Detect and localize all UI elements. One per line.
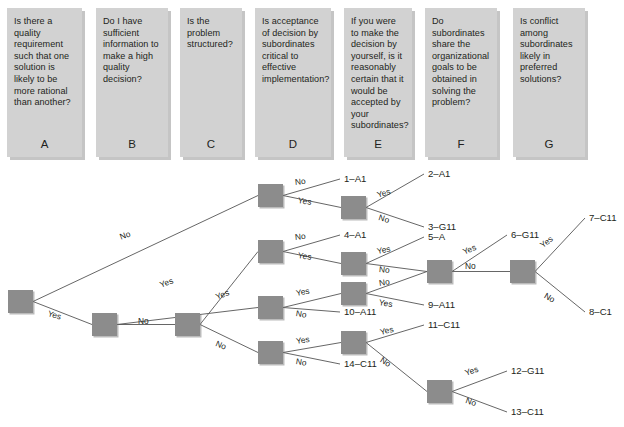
tree-node-g1 [510,260,535,283]
outcome-label-out13: 13–C11 [511,406,544,417]
edge-root-to-dtop [33,196,258,302]
edge-root-to-b1 [33,302,92,325]
edge-e3-to-f1 [366,272,427,294]
tree-node-e3 [341,282,366,305]
edge-e1-to-out2 [366,174,424,208]
tree-node-d2 [258,240,283,263]
edge-e2-to-f1 [366,264,427,272]
question-box-g: Is conflict among subordinates likely in… [513,8,585,157]
edge-label-no-dtop-out1: No [294,176,306,187]
outcome-label-out9: 9–A11 [428,299,455,310]
edge-dtop-to-out1 [283,179,340,196]
question-box-c: Is the problem structured?C [180,8,242,157]
question-letter-f: F [425,138,497,150]
tree-node-root [8,290,33,313]
outcome-label-out12: 12–G11 [511,365,544,376]
question-letter-e: E [344,138,412,150]
tree-node-dtop [258,184,283,207]
outcome-label-out11: 11–C11 [428,319,460,330]
tree-node-b1 [92,313,117,336]
outcome-label-out2: 2–A1 [428,168,450,179]
outcome-label-out10: 10–A11 [344,306,376,317]
question-box-b: Do I have sufficient information to make… [96,8,168,157]
outcome-label-out1: 1–A1 [344,173,366,184]
outcome-label-out7: 7–C11 [589,212,617,223]
edge-label-no-d3-out10: No [295,308,307,320]
edge-label-yes-e3-out9: Yes [378,297,393,309]
edge-f1-to-out6 [452,235,507,272]
edge-g2-to-out13 [452,392,507,413]
edge-e3-to-out9 [366,294,424,306]
tree-node-d4 [258,341,283,364]
edge-g2-to-out12 [452,371,507,392]
edge-label-yes-dtop-e1: Yes [297,195,312,207]
question-text-d: Is acceptance of decision by subordinate… [262,16,325,86]
outcome-label-out6: 6–G11 [511,229,539,240]
decision-tree-figure: Is there a quality requirement such that… [0,0,624,427]
question-header-row: Is there a quality requirement such that… [0,0,624,168]
edge-d3-to-e3 [283,294,341,308]
question-letter-c: C [180,138,242,150]
question-letter-b: B [96,138,168,150]
edge-g1-to-out8 [535,272,585,313]
outcome-label-out5: 5–A [428,231,445,242]
edge-label-no-e3-f1: No [378,276,390,288]
tree-node-f1 [427,260,452,283]
edge-d4-to-out14 [283,353,340,365]
tree-node-g2 [427,380,452,403]
question-text-e: If you were to make the decision by your… [351,16,406,132]
question-text-b: Do I have sufficient information to make… [103,16,162,86]
tree-node-d3 [258,296,283,319]
edge-label-yes-d2-e2: Yes [297,250,312,262]
edge-label-no-f1-g1: No [465,261,476,271]
question-box-d: Is acceptance of decision by subordinate… [255,8,331,157]
edge-label-no-b1-c1: No [138,316,149,326]
question-letter-d: D [255,138,331,150]
edge-d4-to-e4 [283,343,341,353]
edge-label-no-e2-f1: No [378,264,390,275]
question-letter-a: A [7,138,82,150]
question-box-f: Do subordinates share the organizational… [425,8,497,157]
edge-e4-to-out11 [366,325,424,343]
edge-c1-to-d2 [200,252,258,325]
outcome-label-out8: 8–C1 [589,306,612,317]
edge-e1-to-out3 [366,208,424,228]
edge-label-yes-d4-e4: Yes [295,334,310,346]
outcome-label-out4: 4–A1 [344,229,366,240]
decision-tree: NoYesYesNoYesNoNoYesYesNoNoYesYesNoYesNo… [0,168,624,427]
tree-edges-svg [0,168,624,427]
question-text-a: Is there a quality requirement such that… [14,16,76,109]
edge-d3-to-out10 [283,308,340,313]
edge-label-no-d2-out4: No [294,231,306,242]
question-box-a: Is there a quality requirement such that… [7,8,82,157]
question-text-f: Do subordinates share the organizational… [432,16,491,109]
edge-label-no-d4-out14: No [295,356,307,368]
edge-e2-to-out5 [366,237,424,264]
outcome-label-out14: 14–C11 [344,358,377,369]
question-box-e: If you were to make the decision by your… [344,8,412,157]
tree-node-e1 [341,196,366,219]
edge-d2-to-out4 [283,235,340,252]
question-text-c: Is the problem structured? [187,16,236,51]
question-letter-g: G [513,138,585,150]
tree-node-c1 [175,313,200,336]
edge-c1-to-d4 [200,325,258,353]
tree-node-e2 [341,252,366,275]
tree-node-e4 [341,331,366,354]
question-text-g: Is conflict among subordinates likely in… [520,16,579,86]
